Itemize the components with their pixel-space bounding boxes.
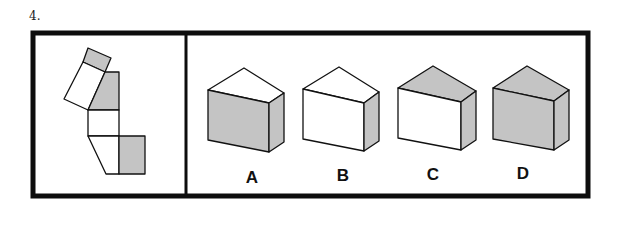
option-d-solid[interactable]	[493, 66, 569, 150]
option-c-solid[interactable]	[398, 66, 476, 150]
option-a-label[interactable]: A	[246, 168, 258, 188]
option-b-solid[interactable]	[303, 67, 379, 151]
net-diagram	[64, 48, 145, 174]
option-b-label[interactable]: B	[337, 166, 349, 186]
net-face-trapezoid-white	[88, 136, 119, 174]
option-a-side-face	[269, 93, 284, 152]
option-c-label[interactable]: C	[427, 165, 439, 185]
option-b-side-face	[364, 92, 379, 151]
option-d-side-face	[554, 90, 569, 150]
option-d-label[interactable]: D	[517, 164, 529, 184]
net-face-square-white	[88, 110, 119, 136]
option-c-side-face	[461, 91, 476, 150]
net-face-square-shaded	[119, 136, 145, 174]
option-a-solid[interactable]	[208, 68, 284, 152]
